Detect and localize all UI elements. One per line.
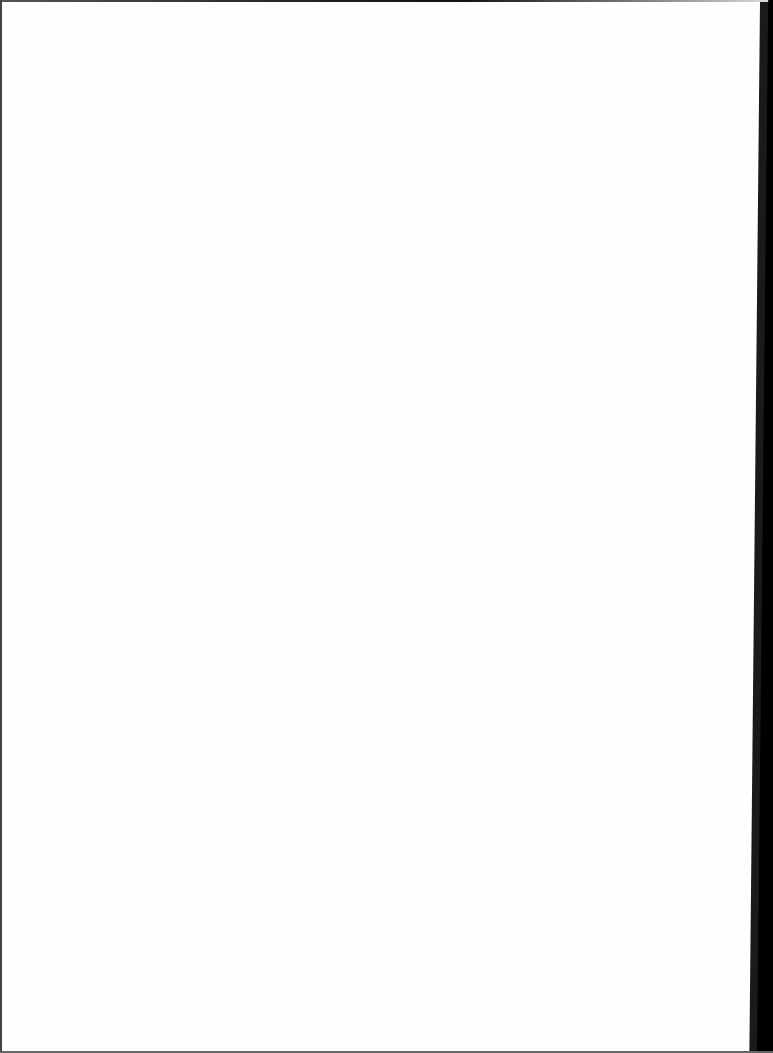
left-edge [0,0,2,1053]
right-shadow-edge [757,0,773,1053]
top-edge [0,0,773,2]
blank-page [2,2,760,1051]
